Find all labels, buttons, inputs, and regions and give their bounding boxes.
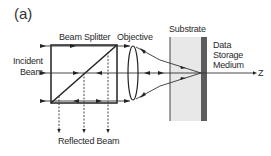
beam-splitter-label: Beam Splitter [59,32,110,42]
incident-beam-label-2: Beam [20,67,43,77]
optical-diagram [0,0,271,156]
reflected-beams [59,52,108,131]
incident-beam-label-1: Incident [13,56,43,66]
data-storage-medium [201,37,207,121]
data-storage-label-1: Data [213,40,231,50]
reflected-beam-label: Reflected Beam [58,136,119,146]
substrate-label: Substrate [169,24,206,34]
z-axis-label: Z [258,68,263,78]
data-storage-label-3: Medium [213,60,244,70]
data-storage-label-2: Storage [213,50,243,60]
substrate [170,37,201,121]
objective-label: Objective [117,32,153,42]
